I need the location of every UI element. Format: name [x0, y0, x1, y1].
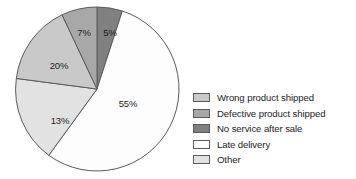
pie-label-defective-product-shipped: 7%	[77, 27, 91, 38]
pie-chart-plot-area: 5% 55% 13% 20% 7%	[12, 4, 182, 176]
legend-swatch-icon-late-delivery	[193, 140, 210, 149]
pie-chart-svg: 5% 55% 13% 20% 7%	[12, 4, 182, 176]
legend-item-wrong-product-shipped[interactable]: Wrong product shipped	[193, 90, 353, 106]
legend-label-wrong-product-shipped: Wrong product shipped	[217, 92, 314, 103]
legend-label-late-delivery: Late delivery	[217, 139, 270, 150]
legend-label-no-service-after-sale: No service after sale	[217, 123, 302, 134]
pie-chart-figure: 5% 55% 13% 20% 7% Wrong product shipped …	[0, 0, 356, 179]
pie-label-other: 13%	[51, 115, 70, 126]
legend-label-defective-product-shipped: Defective product shipped	[217, 108, 325, 119]
legend-swatch-icon-defective-product-shipped	[193, 109, 210, 118]
legend-label-other: Other	[217, 154, 241, 165]
legend-item-other[interactable]: Other	[193, 152, 353, 168]
legend-swatch-icon-wrong-product-shipped	[193, 93, 210, 102]
legend-item-defective-product-shipped[interactable]: Defective product shipped	[193, 106, 353, 122]
chart-legend: Wrong product shipped Defective product …	[193, 90, 353, 168]
legend-item-late-delivery[interactable]: Late delivery	[193, 137, 353, 153]
legend-item-no-service-after-sale[interactable]: No service after sale	[193, 121, 353, 137]
legend-swatch-icon-other	[193, 155, 210, 164]
pie-label-no-service-after-sale: 5%	[103, 27, 117, 38]
pie-label-wrong-product-shipped: 20%	[50, 60, 69, 71]
pie-label-late-delivery: 55%	[119, 98, 138, 109]
legend-swatch-icon-no-service-after-sale	[193, 124, 210, 133]
